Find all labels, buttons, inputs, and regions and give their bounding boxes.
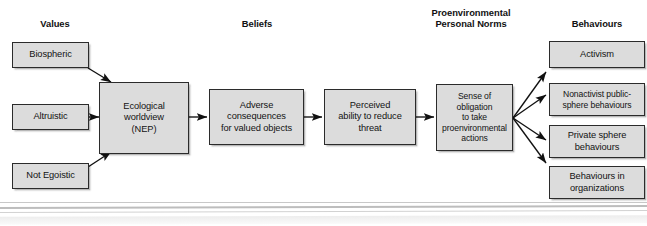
node-biospheric-label: Biospheric (15, 49, 86, 60)
arrow-obligation-to-nonactivist (513, 95, 546, 118)
column-header-beliefs-label: Beliefs (242, 18, 272, 29)
node-nonactivist-public-sphere-line2: sphere behaviours (552, 100, 642, 111)
node-perceived-ability-line2: ability to reduce (327, 111, 413, 122)
node-private-sphere[interactable]: Private sphere behaviours (549, 125, 645, 158)
arrow-obligation-to-organizations (513, 118, 546, 163)
column-header-beliefs: Beliefs (212, 18, 302, 29)
column-header-norms-line1: Proenvironmental (432, 7, 511, 18)
scan-artifact-line-1 (0, 202, 647, 203)
column-header-behaviours-label: Behaviours (572, 18, 623, 29)
node-perceived-ability[interactable]: Perceived ability to reduce threat (324, 89, 416, 145)
node-behaviours-in-organizations[interactable]: Behaviours in organizations (549, 166, 645, 199)
node-adverse-consequences-line3: for valued objects (212, 123, 301, 134)
node-not-egoistic-label: Not Egoistic (15, 170, 86, 181)
node-not-egoistic[interactable]: Not Egoistic (12, 163, 89, 189)
arrow-not-egoistic-to-worldview (88, 152, 111, 167)
node-private-sphere-line1: Private sphere (552, 130, 642, 141)
node-sense-of-obligation-line2: to take (439, 112, 510, 123)
node-behaviours-in-organizations-line1: Behaviours in (552, 171, 642, 182)
node-activism[interactable]: Activism (549, 41, 645, 68)
vbn-model-diagram: Values Beliefs Proenvironmental Personal… (0, 0, 647, 226)
scan-artifact-line-2 (0, 205, 647, 208)
node-biospheric[interactable]: Biospheric (12, 42, 89, 68)
node-perceived-ability-line3: threat (327, 123, 413, 134)
node-adverse-consequences[interactable]: Adverse consequences for valued objects (209, 89, 304, 145)
column-header-norms-line2: Personal Norms (435, 18, 506, 29)
node-sense-of-obligation-line4: actions (439, 133, 510, 144)
column-header-values: Values (12, 18, 98, 29)
node-ecological-worldview[interactable]: Ecological worldview (NEP) (99, 82, 189, 154)
node-sense-of-obligation-line3: proenvironmental (439, 123, 510, 134)
node-ecological-worldview-line2: worldview (102, 112, 186, 123)
node-adverse-consequences-line1: Adverse (212, 100, 301, 111)
node-adverse-consequences-line2: consequences (212, 111, 301, 122)
node-private-sphere-line2: behaviours (552, 142, 642, 153)
scan-artifact-line-3 (0, 210, 647, 213)
arrow-obligation-to-private-sphere (513, 118, 546, 140)
node-activism-label: Activism (552, 49, 642, 60)
node-nonactivist-public-sphere[interactable]: Nonactivist public- sphere behaviours (549, 83, 645, 116)
node-perceived-ability-line1: Perceived (327, 100, 413, 111)
node-sense-of-obligation-line1: Sense of obligation (439, 91, 510, 112)
node-altruistic-label: Altruistic (15, 111, 86, 122)
column-header-behaviours: Behaviours (549, 18, 645, 29)
arrow-obligation-to-activism (513, 72, 546, 118)
node-ecological-worldview-line3: (NEP) (102, 124, 186, 135)
node-nonactivist-public-sphere-line1: Nonactivist public- (552, 89, 642, 100)
column-header-personal-norms: Proenvironmental Personal Norms (412, 7, 530, 29)
scan-artifact-band (0, 215, 647, 224)
node-sense-of-obligation[interactable]: Sense of obligation to take proenvironme… (436, 84, 513, 151)
node-ecological-worldview-line1: Ecological (102, 101, 186, 112)
node-altruistic[interactable]: Altruistic (12, 104, 89, 130)
arrow-biospheric-to-worldview (88, 68, 111, 82)
node-behaviours-in-organizations-line2: organizations (552, 183, 642, 194)
column-header-values-label: Values (40, 18, 69, 29)
